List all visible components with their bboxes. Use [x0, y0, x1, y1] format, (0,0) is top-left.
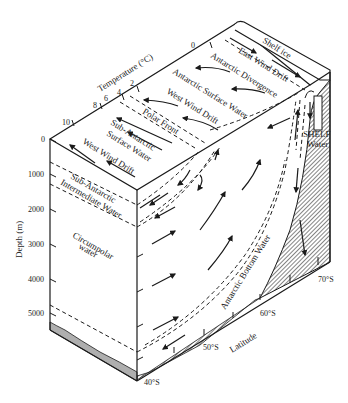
lat-tick-60: 60°S — [260, 309, 276, 318]
depth-tick-2000: 2000 — [28, 205, 44, 214]
lat-tick-70: 70°S — [318, 275, 334, 284]
depth-ticks — [50, 139, 56, 316]
label-antarctic-bottom-water: Antarctic Bottom Water — [218, 233, 272, 311]
lat-tick-50: 50°S — [203, 343, 219, 352]
depth-tick-4000: 4000 — [28, 275, 44, 284]
seafloor-sediment — [50, 322, 137, 381]
front-ticks — [137, 254, 143, 360]
depth-tick-0: 0 — [41, 135, 45, 144]
depth-tick-3000: 3000 — [28, 240, 44, 249]
depth-axis-title: Depth (m) — [14, 221, 24, 258]
depth-tick-1000: 1000 — [28, 170, 44, 179]
label-shelf-water: Water — [307, 139, 328, 149]
temp-tick-0: 0 — [191, 41, 195, 50]
shelf-water-box — [305, 91, 322, 130]
lat-tick-40: 40°S — [144, 378, 160, 387]
southern-ocean-block-diagram: Shelf ice East Wind Drift Antarctic Dive… — [0, 0, 348, 403]
temp-tick-4: 4 — [117, 88, 121, 97]
temp-tick-6: 6 — [104, 94, 108, 103]
label-shelf: SHELF — [303, 129, 331, 139]
depth-tick-5000: 5000 — [28, 309, 44, 318]
latitude-axis-title: Latitude — [228, 330, 259, 354]
temp-tick-2: 2 — [130, 79, 134, 88]
temp-tick-10: 10 — [62, 118, 70, 127]
temp-tick-8: 8 — [93, 101, 97, 110]
